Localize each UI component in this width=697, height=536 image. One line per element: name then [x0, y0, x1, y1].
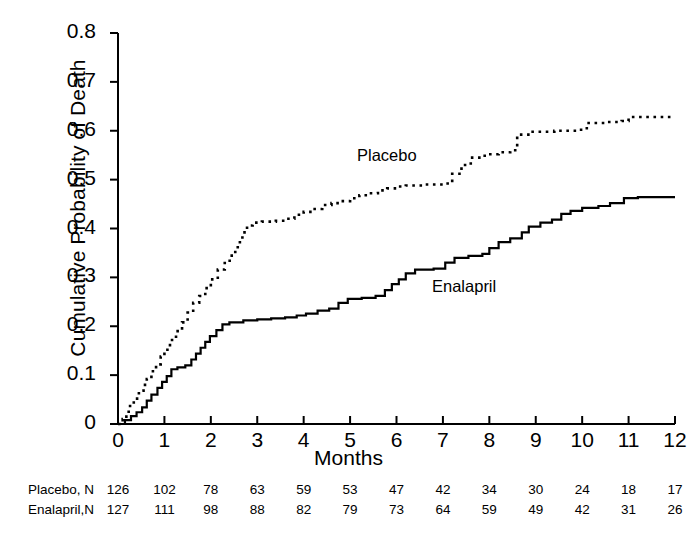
risk-value: 47	[380, 482, 414, 497]
risk-value: 126	[101, 482, 135, 497]
curve-label-enalapril: Enalapril	[432, 277, 496, 296]
axes-lines	[110, 33, 675, 424]
risk-value: 79	[333, 502, 367, 517]
risk-value: 26	[658, 502, 692, 517]
x-axis-label: Months	[0, 446, 697, 470]
risk-value: 111	[147, 502, 181, 517]
risk-value: 30	[519, 482, 553, 497]
survival-curve-figure: Cumulative Probability of Death 0.80.70.…	[0, 0, 697, 536]
curve-label-placebo: Placebo	[357, 146, 417, 165]
risk-value: 18	[612, 482, 646, 497]
risk-value: 127	[101, 502, 135, 517]
x-axis-ticks	[118, 416, 675, 424]
risk-value: 42	[565, 502, 599, 517]
risk-row-label: Placebo, N	[28, 482, 94, 497]
risk-row-label: Enalapril,N	[28, 502, 94, 517]
risk-value: 31	[612, 502, 646, 517]
numbers-at-risk-table: Placebo, N1261027863595347423430241817En…	[0, 482, 697, 522]
risk-value: 59	[472, 502, 506, 517]
risk-value: 53	[333, 482, 367, 497]
risk-value: 49	[519, 502, 553, 517]
risk-value: 24	[565, 482, 599, 497]
risk-table-row: Enalapril,N1271119888827973645949423126	[0, 502, 697, 522]
plot-area	[0, 0, 697, 440]
risk-value: 82	[287, 502, 321, 517]
risk-table-row: Placebo, N1261027863595347423430241817	[0, 482, 697, 502]
risk-value: 78	[194, 482, 228, 497]
risk-value: 102	[147, 482, 181, 497]
risk-value: 63	[240, 482, 274, 497]
risk-value: 73	[380, 502, 414, 517]
risk-value: 88	[240, 502, 274, 517]
risk-value: 34	[472, 482, 506, 497]
curve-enalapril	[118, 197, 675, 424]
risk-value: 17	[658, 482, 692, 497]
risk-value: 42	[426, 482, 460, 497]
risk-value: 59	[287, 482, 321, 497]
risk-value: 64	[426, 502, 460, 517]
y-axis-ticks	[110, 33, 118, 424]
risk-value: 98	[194, 502, 228, 517]
